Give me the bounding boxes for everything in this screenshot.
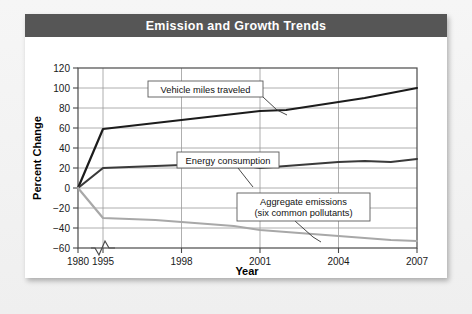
y-axis-tick-label: −60: [53, 243, 70, 254]
vehicle-miles-callout-label: Vehicle miles traveled: [161, 85, 251, 95]
y-axis-tick-label: −40: [53, 223, 70, 234]
x-axis-tick-label: 2004: [327, 256, 350, 267]
aggregate-emissions-callout-label-line2: (six common pollutants): [254, 208, 352, 218]
chart-title-bar: Emission and Growth Trends: [25, 14, 447, 37]
vehicle-miles-leader-line: [263, 97, 287, 115]
y-axis-tick-label: 0: [64, 183, 70, 194]
chart-plot-container: 120100806040200−20−40−60 198019951998200…: [25, 37, 447, 278]
x-axis-tick-label: 1998: [170, 256, 193, 267]
aggregate-emissions-callout: Aggregate emissions (six common pollutan…: [237, 193, 370, 242]
y-axis-tick-label: 80: [59, 103, 71, 114]
x-axis-tick-label: 1980: [67, 256, 90, 267]
aggregate-emissions-callout-label-line1: Aggregate emissions: [260, 197, 347, 207]
energy-consumption-callout: Energy consumption: [177, 152, 279, 187]
x-axis-tick-label: 1995: [92, 256, 115, 267]
series-line: [78, 88, 417, 188]
aggregate-emissions-leader-line: [295, 221, 321, 242]
y-axis-tick-label: 100: [53, 83, 70, 94]
y-axis-tick-label: 60: [59, 123, 71, 134]
page-background: Emission and Growth Trends 1201008060402…: [0, 0, 472, 314]
chart-card: Emission and Growth Trends 1201008060402…: [25, 14, 447, 278]
energy-consumption-leader-line: [238, 168, 253, 187]
y-axis-tick-label: −20: [53, 203, 70, 214]
y-axis-tick-label: 120: [53, 63, 70, 74]
x-axis-tick-label: 2007: [406, 256, 429, 267]
line-chart: 120100806040200−20−40−60 198019951998200…: [25, 37, 447, 278]
y-axis-tick-label: 40: [59, 143, 71, 154]
chart-title: Emission and Growth Trends: [146, 19, 327, 33]
y-axis: 120100806040200−20−40−60: [53, 63, 78, 254]
x-axis-title: Year: [235, 265, 259, 277]
energy-consumption-callout-label: Energy consumption: [186, 156, 271, 166]
y-axis-title: Percent Change: [31, 116, 43, 200]
y-axis-tick-label: 20: [59, 163, 71, 174]
